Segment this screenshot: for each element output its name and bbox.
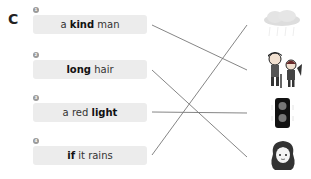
match-line-3-3: [152, 112, 247, 113]
rain-cloud-icon: [260, 8, 304, 38]
match-line-4-1: [152, 25, 247, 155]
traffic-light-icon: [270, 96, 296, 132]
match-line-1-2: [152, 25, 247, 70]
elderly-man-and-child-icon: [263, 50, 305, 90]
match-line-2-4: [152, 70, 247, 157]
long-haired-girl-icon: [267, 138, 299, 174]
